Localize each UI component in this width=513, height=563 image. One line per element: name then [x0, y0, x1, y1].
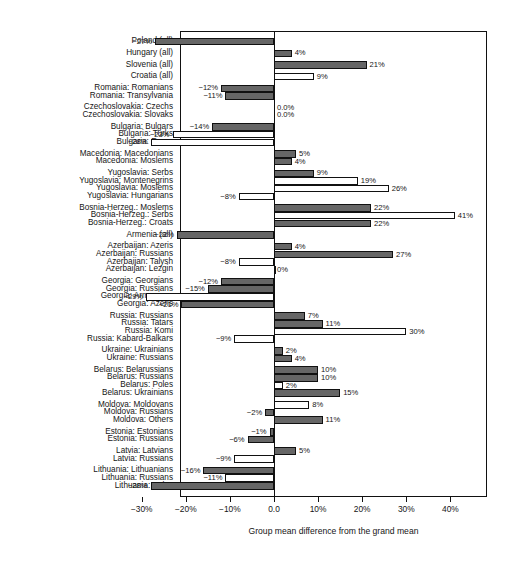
bar-row: −8% — [180, 191, 487, 202]
x-tick — [274, 497, 275, 502]
bar-series: −27%4%21%9%−12%−11%0.0%0.0%−14%−23%−28%5… — [180, 31, 487, 497]
bar — [151, 482, 274, 490]
bar — [239, 193, 274, 201]
category-label: Azerbaijan: Lezgin — [0, 265, 177, 273]
bar-row: 9% — [180, 71, 487, 82]
x-tick — [142, 497, 143, 502]
bar-value-label: −11% — [203, 91, 222, 100]
bar-row: 4% — [180, 48, 487, 59]
x-axis: −30%−20%−10%0.010%20%30%40% — [180, 497, 487, 499]
bar-row: 0.0% — [180, 110, 487, 121]
category-label: Ukraine: Russians — [0, 354, 177, 362]
bar — [274, 220, 371, 228]
x-tick — [186, 497, 187, 502]
bar-value-label: −28% — [128, 137, 148, 146]
bar-value-label: 21% — [370, 60, 385, 69]
bar-value-label: 15% — [343, 388, 358, 397]
bar-row: −6% — [180, 434, 487, 445]
bar — [177, 231, 274, 239]
bar-value-label: −22% — [154, 230, 174, 239]
bar — [155, 38, 274, 46]
bar-row: 4% — [180, 353, 487, 364]
category-label: Hungary (all) — [0, 49, 177, 57]
bar-row: 22% — [180, 218, 487, 229]
category-label: Macedonia: Moslems — [0, 157, 177, 165]
bar-value-label: 9% — [317, 72, 328, 81]
category-label: Estonia: Russians — [0, 435, 177, 443]
bar — [274, 73, 314, 81]
bar — [225, 92, 274, 100]
bar-value-label: −6% — [229, 435, 244, 444]
x-tick — [318, 497, 319, 502]
x-tick-label: 40% — [420, 505, 480, 514]
bar — [274, 266, 276, 274]
bar — [274, 389, 340, 397]
bar-value-label: 11% — [326, 415, 341, 424]
chart-figure: Poland (all)Hungary (all)Slovenia (all)C… — [0, 0, 513, 563]
bar-value-label: −29% — [123, 292, 143, 301]
bar — [151, 139, 274, 147]
category-label: Armenia (all) — [0, 231, 177, 239]
category-label: Czechoslovakia: Slovaks — [0, 111, 177, 119]
bar-row: −21% — [180, 299, 487, 310]
category-label: Slovenia (all) — [0, 61, 177, 69]
category-label: Croatia (all) — [0, 72, 177, 80]
x-axis-title: Group mean difference from the grand mea… — [180, 526, 487, 536]
bar-row: −28% — [180, 481, 487, 492]
bar-value-label: 0% — [277, 265, 288, 274]
bar-value-label: −8% — [220, 192, 235, 201]
x-tick — [406, 497, 407, 502]
bar-value-label: 4% — [295, 354, 306, 363]
bar — [274, 355, 292, 363]
category-axis-labels: Poland (all)Hungary (all)Slovenia (all)C… — [0, 31, 177, 497]
bar-value-label: 0.0% — [277, 110, 294, 119]
bar-value-label: −21% — [159, 300, 179, 309]
bar-row: −9% — [180, 334, 487, 345]
bar-value-label: −23% — [150, 130, 170, 139]
category-label: Belarus: Ukrainians — [0, 389, 177, 397]
bar-row: 0% — [180, 265, 487, 276]
category-label: Georgia: Azeris — [0, 300, 177, 308]
bar-row: −9% — [180, 454, 487, 465]
bar — [234, 335, 274, 343]
category-label: Moldova: Others — [0, 416, 177, 424]
bar-row: −11% — [180, 91, 487, 102]
bar — [274, 416, 323, 424]
bar-row: 21% — [180, 60, 487, 71]
x-tick — [230, 497, 231, 502]
bar-row: 4% — [180, 156, 487, 167]
bar-value-label: −9% — [216, 454, 231, 463]
bar-value-label: 4% — [295, 157, 306, 166]
bar — [234, 455, 274, 463]
bar — [181, 301, 274, 309]
bar — [274, 158, 292, 166]
bar-value-label: 4% — [295, 48, 306, 57]
bar-row: 15% — [180, 388, 487, 399]
bar-value-label: 22% — [374, 219, 389, 228]
bar — [248, 436, 274, 444]
x-tick — [362, 497, 363, 502]
bar — [274, 50, 292, 58]
category-label: Romania: Transylvania — [0, 92, 177, 100]
category-label: Latvia: Russians — [0, 455, 177, 463]
bar-value-label: −28% — [128, 481, 148, 490]
bar — [274, 61, 367, 69]
bar-row: −22% — [180, 230, 487, 241]
bar-value-label: −9% — [216, 334, 231, 343]
category-label: Bosnia-Herzeg.: Croats — [0, 219, 177, 227]
category-label: Russia: Kabard-Balkars — [0, 335, 177, 343]
bar-row: 11% — [180, 415, 487, 426]
bar-value-label: −27% — [132, 37, 152, 46]
x-tick — [450, 497, 451, 502]
bar-row: −27% — [180, 36, 487, 47]
bar-row: −28% — [180, 137, 487, 148]
category-label: Yugoslavia: Hungarians — [0, 192, 177, 200]
